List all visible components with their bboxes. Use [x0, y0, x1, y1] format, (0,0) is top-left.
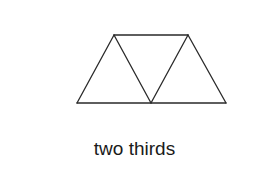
left-edge [77, 35, 114, 103]
right-edge [188, 35, 226, 103]
inner-edge-1 [114, 35, 151, 103]
caption-label: two thirds [0, 138, 269, 160]
inner-edge-2 [151, 35, 188, 103]
